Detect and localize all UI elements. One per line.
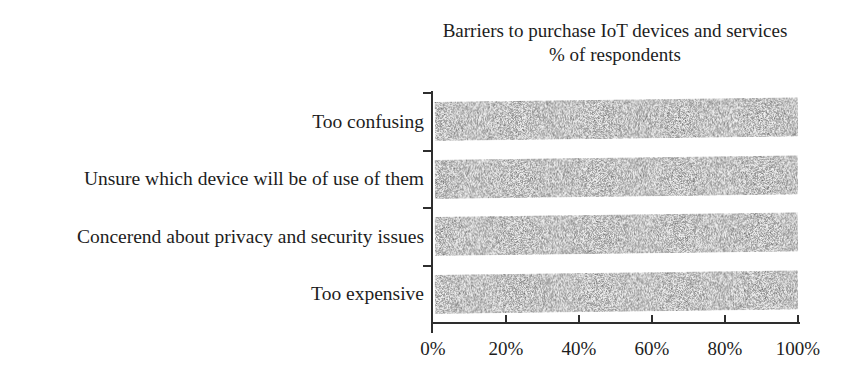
category-label: Concerend about privacy and security iss… (0, 223, 424, 251)
y-axis-line (431, 91, 433, 333)
bar-noise-texture (435, 213, 798, 256)
x-tick-label: 40% (539, 337, 619, 361)
x-axis-tick (797, 315, 799, 324)
x-tick-label: 100% (758, 337, 838, 361)
scanned-bar-chart-figure: Barriers to purchase IoT devices and ser… (0, 0, 848, 384)
bar (435, 156, 798, 199)
plot-area: 0%20%40%60%80%100%Too confusingUnsure wh… (0, 0, 848, 384)
x-axis-tick (651, 315, 653, 324)
bar (435, 213, 798, 256)
bar-noise-texture (435, 98, 798, 141)
y-axis-tick (423, 207, 432, 209)
bar-noise-texture (435, 271, 798, 314)
x-axis-tick (578, 315, 580, 324)
x-tick-label: 0% (393, 337, 473, 361)
bar (435, 98, 798, 141)
y-axis-tick (423, 150, 432, 152)
bar-noise-texture (435, 156, 798, 199)
y-axis-tick (423, 92, 432, 94)
bar (435, 271, 798, 314)
x-tick-label: 80% (685, 337, 765, 361)
x-tick-label: 20% (466, 337, 546, 361)
category-label: Too expensive (0, 280, 424, 308)
category-label: Unsure which device will be of use of th… (0, 165, 424, 193)
x-axis-tick (724, 315, 726, 324)
x-tick-label: 60% (612, 337, 692, 361)
x-axis-tick (505, 315, 507, 324)
category-label: Too confusing (0, 108, 424, 136)
x-axis-line (431, 322, 800, 324)
y-axis-tick (423, 265, 432, 267)
